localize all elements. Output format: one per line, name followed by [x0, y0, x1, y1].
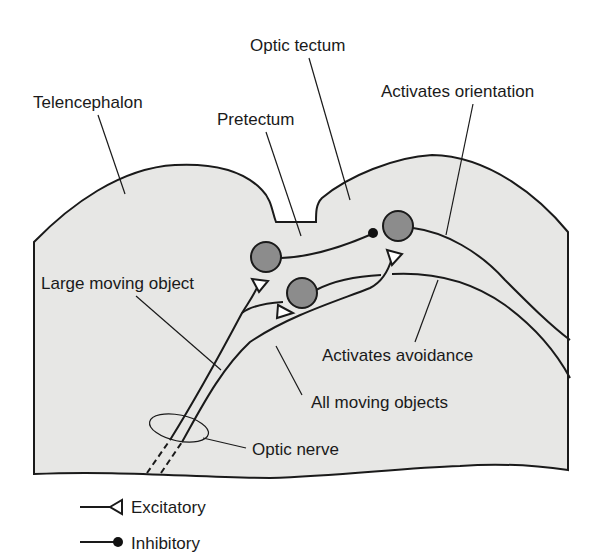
label-all-moving-objects: All moving objects	[311, 393, 448, 412]
legend-inhibitory-icon	[113, 537, 123, 547]
neural-circuit-diagram: Telencephalon Optic tectum Pretectum Act…	[0, 0, 596, 554]
label-large-moving-object: Large moving object	[41, 274, 194, 293]
tectal-avoidance-neuron	[287, 278, 317, 308]
label-pretectum: Pretectum	[217, 110, 294, 129]
tectal-orientation-neuron	[383, 211, 413, 241]
label-optic-nerve: Optic nerve	[252, 440, 339, 459]
label-activates-orientation: Activates orientation	[381, 82, 534, 101]
legend-excitatory-label: Excitatory	[131, 498, 206, 517]
legend-inhibitory-label: Inhibitory	[131, 534, 200, 553]
label-optic-tectum: Optic tectum	[250, 36, 345, 55]
legend-excitatory-icon	[110, 500, 122, 514]
legend: Excitatory Inhibitory	[80, 498, 206, 553]
label-telencephalon: Telencephalon	[33, 93, 143, 112]
brain-outline	[34, 155, 568, 478]
pretectal-neuron	[251, 242, 281, 272]
leader-optic-tectum	[309, 58, 350, 200]
label-activates-avoidance: Activates avoidance	[322, 346, 473, 365]
inhibitory-synapse-icon	[368, 228, 378, 238]
